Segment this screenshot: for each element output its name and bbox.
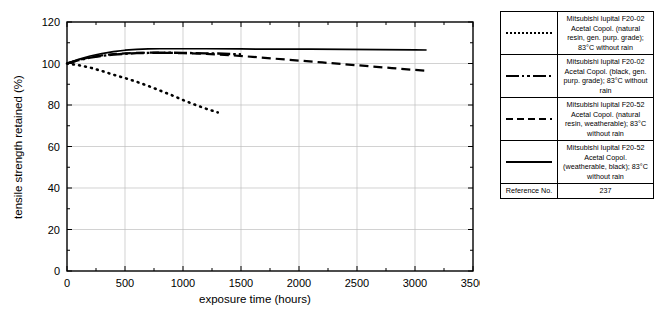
line-style-dotted-icon (506, 32, 552, 34)
legend-description-line: Acetal Copol. (natural (560, 110, 651, 120)
legend-table: Mitsubishi Iupital F20-02Acetal Copol. (… (500, 11, 654, 199)
series-line-4 (67, 49, 427, 64)
x-tick-label: 3500 (461, 277, 480, 289)
legend-description-line: Mitsubishi Iupital F20-02 (560, 57, 651, 67)
legend-description-line: Acetal Copol. (560, 153, 651, 163)
y-tick-label: 80 (48, 99, 60, 111)
legend-description-line: without rain (560, 172, 651, 182)
legend-description-line: Mitsubishi Iupital F20-52 (560, 143, 651, 153)
legend-description-3: Mitsubishi Iupital F20-52Acetal Copol. (… (558, 98, 654, 141)
legend-description-1: Mitsubishi Iupital F20-02Acetal Copol. (… (558, 12, 654, 55)
line-style-solid-icon (506, 161, 552, 164)
line-style-dashed-icon (506, 118, 552, 121)
series-line-3 (67, 53, 427, 71)
y-tick-label: 100 (42, 58, 60, 70)
chart-svg: 0500100015002000250030003500020406080100… (0, 0, 480, 323)
chart-figure: 0500100015002000250030003500020406080100… (0, 0, 480, 323)
legend-description-line: purp. grade); 83°C without (560, 76, 651, 86)
legend-description-2: Mitsubishi Iupital F20-02Acetal Copol. (… (558, 55, 654, 98)
legend-swatch-cell-1 (501, 12, 558, 55)
y-tick-label: 0 (54, 265, 60, 277)
y-axis-label: tensile strength retained (%) (12, 75, 24, 219)
legend-description-line: 83°C without rain (560, 43, 651, 53)
x-tick-label: 2000 (287, 277, 311, 289)
legend-description-line: rain (560, 86, 651, 96)
y-tick-label: 20 (48, 224, 60, 236)
y-tick-label: 120 (42, 16, 60, 28)
legend-row: Mitsubishi Iupital F20-02Acetal Copol. (… (501, 55, 654, 98)
legend-description-line: Acetal Copol. (black, gen. (560, 67, 651, 77)
legend-description-4: Mitsubishi Iupital F20-52Acetal Copol.(w… (558, 141, 654, 184)
legend-description-line: resin, weatherable); 83°C (560, 119, 651, 129)
legend-description-line: resin, gen. purp. grade); (560, 33, 651, 43)
legend-row: Mitsubishi Iupital F20-52Acetal Copol. (… (501, 98, 654, 141)
axis-tick-labels: 0500100015002000250030003500020406080100… (42, 16, 480, 289)
x-axis-label: exposure time (hours) (199, 293, 311, 305)
x-tick-label: 1500 (229, 277, 253, 289)
legend-description-line: without rain (560, 129, 651, 139)
y-tick-label: 60 (48, 141, 60, 153)
legend-description-line: (weatherable, black); 83°C (560, 162, 651, 172)
x-tick-label: 3000 (403, 277, 427, 289)
y-tick-label: 40 (48, 182, 60, 194)
legend-row: Mitsubishi Iupital F20-02Acetal Copol. (… (501, 12, 654, 55)
legend-description-line: Acetal Copol. (natural (560, 24, 651, 34)
x-tick-label: 500 (116, 277, 134, 289)
line-style-dash-dot-icon (506, 75, 552, 78)
legend-description-line: Mitsubishi Iupital F20-02 (560, 14, 651, 24)
x-tick-label: 2500 (345, 277, 369, 289)
data-series (67, 49, 427, 113)
series-line-2 (67, 53, 241, 64)
legend-swatch-cell-3 (501, 98, 558, 141)
x-tick-label: 0 (64, 277, 70, 289)
legend-description-line: Mitsubishi Iupital F20-52 (560, 100, 651, 110)
reference-row: Reference No.237 (501, 184, 654, 199)
legend-row: Mitsubishi Iupital F20-52Acetal Copol.(w… (501, 141, 654, 184)
legend-swatch-cell-4 (501, 141, 558, 184)
reference-value: 237 (558, 184, 654, 199)
legend-swatch-cell-2 (501, 55, 558, 98)
reference-label: Reference No. (501, 184, 558, 199)
x-tick-label: 1000 (171, 277, 195, 289)
